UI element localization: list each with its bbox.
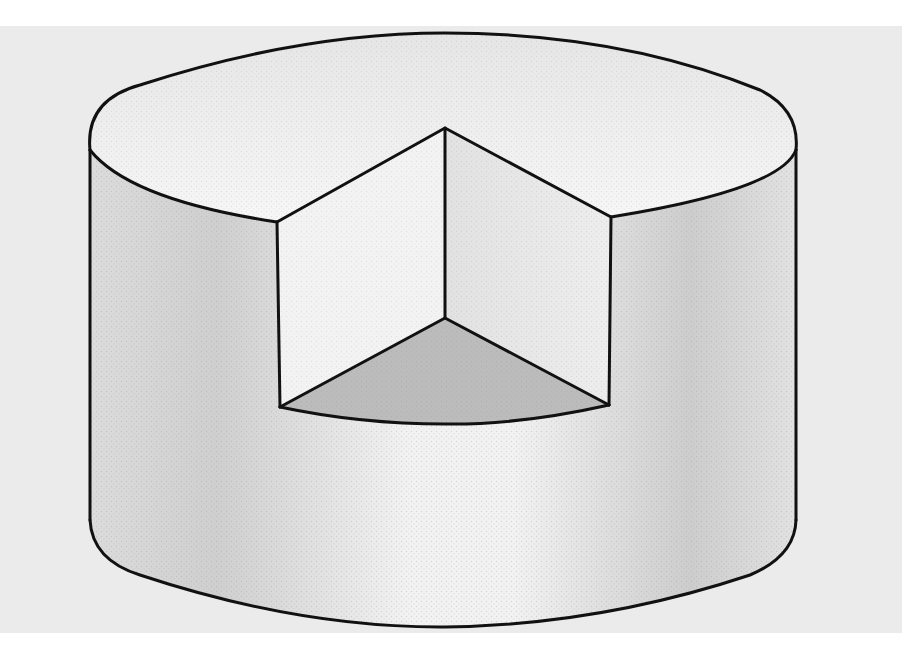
cut-cylinder-diagram xyxy=(0,0,902,655)
